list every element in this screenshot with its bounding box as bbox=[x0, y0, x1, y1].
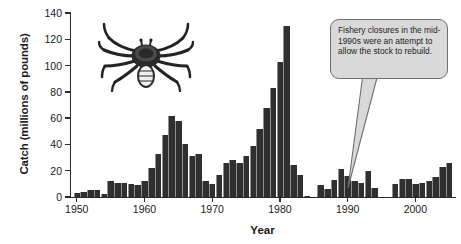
bar bbox=[229, 160, 236, 197]
bar bbox=[304, 196, 311, 197]
y-tick-label: 120 bbox=[34, 33, 62, 45]
bar bbox=[317, 185, 324, 197]
bar bbox=[344, 176, 351, 197]
y-tick-label: 80 bbox=[34, 86, 62, 98]
bar bbox=[256, 129, 263, 197]
bar bbox=[283, 26, 290, 197]
bar bbox=[439, 167, 446, 197]
x-tick-label: 1960 bbox=[124, 203, 164, 215]
x-tick-label: 1970 bbox=[192, 203, 232, 215]
x-tick-label: 1990 bbox=[328, 203, 368, 215]
bar bbox=[175, 121, 182, 197]
bar bbox=[270, 88, 277, 197]
y-tick-label: 0 bbox=[34, 191, 62, 203]
y-tick-label: 20 bbox=[34, 165, 62, 177]
bar bbox=[80, 192, 87, 197]
bar bbox=[392, 184, 399, 197]
x-tick-label: 2000 bbox=[395, 203, 435, 215]
bar bbox=[290, 165, 297, 197]
bar bbox=[405, 179, 412, 197]
bar bbox=[195, 154, 202, 197]
bar bbox=[202, 181, 209, 197]
bar bbox=[358, 183, 365, 197]
x-tick-label: 1950 bbox=[57, 203, 97, 215]
bar bbox=[432, 177, 439, 197]
chart-figure: Catch (millions of pounds) 0204060801001… bbox=[0, 0, 461, 244]
bar bbox=[243, 156, 250, 197]
x-tick-mark bbox=[76, 198, 77, 202]
bar bbox=[168, 116, 175, 197]
bar bbox=[94, 190, 101, 197]
x-tick-mark bbox=[415, 198, 416, 202]
bar bbox=[236, 163, 243, 197]
bar bbox=[182, 144, 189, 197]
bar bbox=[277, 62, 284, 197]
y-tick-label: 40 bbox=[34, 138, 62, 150]
bar bbox=[263, 108, 270, 197]
bar bbox=[148, 168, 155, 197]
bar bbox=[209, 184, 216, 197]
bar bbox=[74, 193, 81, 197]
y-axis-title: Catch (millions of pounds) bbox=[18, 14, 30, 194]
bar bbox=[101, 194, 108, 197]
bar bbox=[128, 184, 135, 197]
x-tick-mark bbox=[279, 198, 280, 202]
bar bbox=[365, 171, 372, 197]
bar bbox=[338, 169, 345, 197]
bar bbox=[412, 184, 419, 197]
bar bbox=[162, 135, 169, 197]
bar bbox=[426, 181, 433, 197]
x-tick-mark bbox=[347, 198, 348, 202]
bar bbox=[155, 154, 162, 197]
x-tick-label: 1980 bbox=[260, 203, 300, 215]
bar bbox=[371, 188, 378, 197]
y-tick-label: 140 bbox=[34, 7, 62, 19]
king-crab-illustration-icon bbox=[98, 18, 194, 92]
y-tick-label: 100 bbox=[34, 60, 62, 72]
bar bbox=[134, 185, 141, 197]
bar bbox=[331, 180, 338, 197]
bar bbox=[250, 146, 257, 197]
bar bbox=[419, 183, 426, 197]
x-tick-mark bbox=[212, 198, 213, 202]
bar bbox=[107, 181, 114, 197]
bar bbox=[297, 175, 304, 197]
bar bbox=[189, 156, 196, 197]
bar bbox=[141, 181, 148, 197]
bar bbox=[446, 163, 453, 197]
bar bbox=[121, 183, 128, 197]
x-tick-mark bbox=[144, 198, 145, 202]
y-tick-label: 60 bbox=[34, 112, 62, 124]
bar bbox=[324, 189, 331, 197]
bar bbox=[351, 181, 358, 197]
annotation-callout: Fishery closures in the mid-1990s were a… bbox=[330, 19, 448, 79]
bar bbox=[114, 183, 121, 197]
bar bbox=[216, 175, 223, 197]
bar bbox=[223, 163, 230, 197]
bar bbox=[87, 190, 94, 197]
x-axis-title: Year bbox=[70, 224, 455, 236]
bar bbox=[399, 179, 406, 197]
